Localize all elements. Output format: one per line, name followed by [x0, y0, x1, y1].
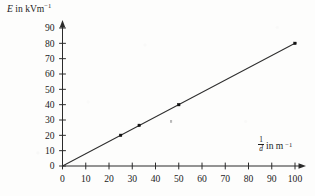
y-tick-label: 0	[50, 160, 55, 171]
x-tick-label: 20	[104, 173, 114, 184]
y-tick-label: 20	[45, 130, 55, 141]
y-tick-label: 40	[45, 99, 55, 110]
plot-area: 0102030405060708090 01020304050607080901…	[0, 0, 315, 196]
data-point-marker	[177, 103, 180, 106]
y-tick-label: 60	[45, 68, 55, 79]
y-tick-label: 10	[45, 145, 55, 156]
y-tick-label: 70	[45, 53, 55, 64]
x-tick-label: 80	[244, 173, 254, 184]
x-tick-label: 40	[151, 173, 161, 184]
x-axis-arrowhead	[299, 163, 307, 168]
data-point-marker	[294, 42, 297, 45]
y-tick-label: 50	[45, 84, 55, 95]
data-point-marker	[119, 134, 122, 137]
x-tick-label: 70	[220, 173, 230, 184]
x-tick-label: 10	[81, 173, 91, 184]
data-point-marker	[138, 124, 141, 127]
x-tick-label: 0	[60, 173, 65, 184]
y-axis-arrowhead	[60, 20, 66, 28]
x-tick-label: 100	[288, 173, 303, 184]
y-tick-label: 80	[45, 38, 55, 49]
y-tick-label: 90	[45, 22, 55, 33]
x-tick-label: 30	[127, 173, 137, 184]
figure-canvas: E in kVm−1 1 d in m−1 010203040506070809…	[0, 0, 315, 196]
scan-speck	[170, 120, 172, 123]
x-tick-label: 60	[197, 173, 207, 184]
y-axis-tick-labels: 0102030405060708090	[45, 22, 55, 171]
y-tick-label: 30	[45, 114, 55, 125]
axis-group	[60, 20, 306, 169]
x-tick-label: 50	[174, 173, 184, 184]
x-tick-label: 90	[267, 173, 277, 184]
x-axis-tick-labels: 0102030405060708090100	[60, 173, 302, 184]
